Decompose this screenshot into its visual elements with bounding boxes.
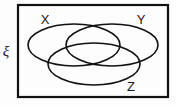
venn-diagram-canvas: ξ X Y Z bbox=[0, 0, 176, 105]
venn-diagram-figure: ξ X Y Z bbox=[0, 0, 176, 105]
set-label-x: X bbox=[41, 12, 50, 27]
universal-set-label: ξ bbox=[3, 43, 10, 59]
set-label-z: Z bbox=[127, 79, 135, 94]
set-label-y: Y bbox=[137, 12, 146, 27]
